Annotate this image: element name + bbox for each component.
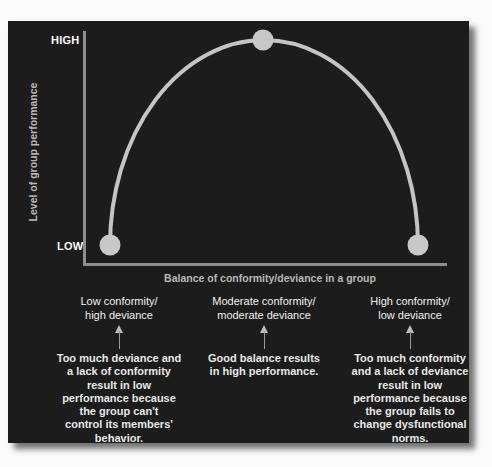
desc-line: Too much deviance and	[49, 352, 189, 365]
point-low-left	[100, 235, 121, 256]
desc-line: result in low	[340, 379, 480, 392]
annotation-heading: Low conformity/ high deviance	[49, 295, 189, 322]
annotation-heading: Moderate conformity/ moderate deviance	[194, 295, 334, 322]
heading-line: High conformity/	[340, 295, 480, 309]
y-tick-high: HIGH	[51, 34, 79, 46]
desc-line: performance because	[49, 392, 189, 405]
y-tick-low: LOW	[57, 240, 83, 252]
annotation-heading: High conformity/ low deviance	[340, 295, 480, 322]
desc-line: a lack of conformity	[49, 365, 189, 378]
up-arrow-icon	[406, 325, 414, 349]
annotation-description: Too much conformity and a lack of devian…	[340, 352, 480, 445]
annotation-description: Good balance results in high performance…	[194, 352, 334, 379]
desc-line: the group fails to	[340, 405, 480, 418]
heading-line: Low conformity/	[49, 295, 189, 309]
desc-line: and a lack of deviance	[340, 365, 480, 378]
up-arrow-icon	[260, 325, 268, 349]
heading-line: high deviance	[49, 309, 189, 323]
annotation-description: Too much deviance and a lack of conformi…	[49, 352, 189, 445]
up-arrow-icon	[115, 325, 123, 349]
y-axis-label: Level of group performance	[27, 83, 39, 222]
desc-line: performance because	[340, 392, 480, 405]
performance-curve	[110, 40, 418, 246]
desc-line: in high performance.	[194, 365, 334, 378]
heading-line: moderate deviance	[194, 309, 334, 323]
heading-line: Moderate conformity/	[194, 295, 334, 309]
desc-line: the group can't	[49, 405, 189, 418]
annotation-high-conformity: High conformity/ low deviance Too much c…	[340, 295, 480, 445]
desc-line: behavior.	[49, 432, 189, 445]
figure-stage: HIGH LOW Level of group performance Bala…	[0, 0, 492, 467]
annotation-moderate-conformity: Moderate conformity/ moderate deviance G…	[194, 295, 334, 379]
desc-line: Too much conformity	[340, 352, 480, 365]
desc-line: Good balance results	[194, 352, 334, 365]
x-axis-label: Balance of conformity/deviance in a grou…	[93, 272, 447, 284]
desc-line: change dysfunctional	[340, 418, 480, 431]
desc-line: result in low	[49, 379, 189, 392]
point-high-middle	[253, 30, 274, 51]
annotation-low-conformity: Low conformity/ high deviance Too much d…	[49, 295, 189, 445]
point-low-right	[408, 235, 429, 256]
desc-line: norms.	[340, 432, 480, 445]
heading-line: low deviance	[340, 309, 480, 323]
desc-line: control its members'	[49, 418, 189, 431]
